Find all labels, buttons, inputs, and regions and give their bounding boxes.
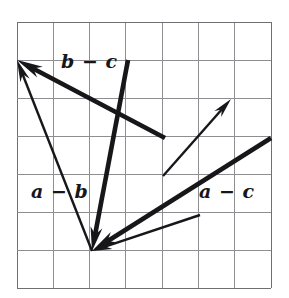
vector-diagram-canvas bbox=[0, 0, 289, 298]
vector-label-a-minus-b: a − b bbox=[31, 182, 88, 201]
vector-shaft bbox=[101, 215, 200, 248]
vector-shaft bbox=[94, 60, 128, 240]
vector-layer bbox=[17, 60, 271, 251]
vector-shaft bbox=[27, 65, 165, 138]
vector-b-steep bbox=[91, 60, 128, 251]
vector-shaft bbox=[163, 106, 225, 176]
vector-a-minus-c-thin bbox=[92, 215, 200, 251]
vector-label-b-minus-c: b − c bbox=[61, 52, 118, 71]
vector-label-a-minus-c: a − c bbox=[199, 182, 255, 201]
vector-a-minus-b bbox=[17, 60, 92, 251]
vector-diagram-figure: b − c a − b a − c bbox=[0, 0, 289, 298]
vector-c-thin-right bbox=[163, 99, 231, 176]
